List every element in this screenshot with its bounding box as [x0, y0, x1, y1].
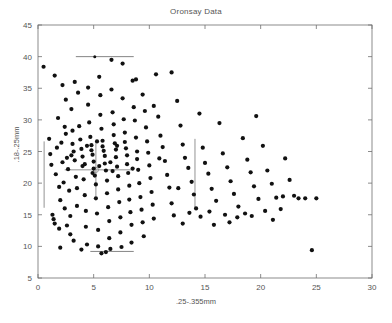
- data-point: [92, 166, 96, 170]
- data-point: [57, 227, 61, 231]
- data-point: [79, 147, 83, 151]
- data-point: [58, 198, 62, 202]
- data-point: [115, 144, 119, 148]
- data-point: [225, 165, 229, 169]
- data-point: [74, 175, 78, 179]
- data-point: [125, 162, 129, 166]
- data-point: [65, 156, 69, 160]
- data-point: [78, 137, 82, 141]
- data-point: [115, 165, 119, 169]
- data-point: [281, 194, 285, 198]
- data-point: [83, 193, 87, 197]
- data-point: [90, 153, 94, 157]
- data-point: [206, 172, 210, 176]
- data-point: [144, 125, 148, 129]
- y-tick-label: 45: [23, 21, 32, 30]
- data-point: [99, 127, 103, 131]
- data-point: [108, 160, 112, 164]
- data-point: [103, 161, 107, 165]
- data-point: [97, 164, 101, 168]
- data-point: [105, 179, 109, 183]
- data-point: [142, 234, 146, 238]
- data-point: [152, 104, 156, 108]
- x-axis-label: .25-.355mm: [0, 297, 392, 306]
- data-point: [86, 103, 90, 107]
- data-point: [53, 74, 57, 78]
- data-point: [103, 154, 107, 158]
- data-point: [152, 216, 156, 220]
- data-point: [279, 207, 283, 211]
- data-point: [214, 199, 218, 203]
- data-point: [126, 171, 130, 175]
- data-point: [252, 184, 256, 188]
- y-axis-label: .18-.25mm: [12, 105, 21, 185]
- data-point: [85, 144, 89, 148]
- data-point: [104, 168, 108, 172]
- data-point: [68, 214, 72, 218]
- data-point: [139, 208, 143, 212]
- data-point: [256, 197, 260, 201]
- data-point: [176, 186, 180, 190]
- data-point: [73, 80, 77, 84]
- data-point: [53, 222, 57, 226]
- data-point: [165, 173, 169, 177]
- data-point: [65, 223, 69, 227]
- data-point: [83, 162, 87, 166]
- data-point: [79, 247, 83, 251]
- data-point: [241, 136, 245, 140]
- data-point: [192, 192, 196, 196]
- data-point: [80, 154, 84, 158]
- data-point: [265, 168, 269, 172]
- data-point: [96, 244, 100, 248]
- data-point: [99, 251, 103, 255]
- data-point: [134, 135, 138, 139]
- data-point: [60, 83, 64, 87]
- data-point: [235, 215, 239, 219]
- data-point: [121, 96, 125, 100]
- data-point: [50, 213, 54, 217]
- data-point: [90, 171, 94, 175]
- data-point: [163, 159, 167, 163]
- data-point: [170, 70, 174, 74]
- data-point: [85, 242, 89, 246]
- data-point: [110, 110, 114, 114]
- data-point: [138, 195, 142, 199]
- data-point: [89, 143, 93, 147]
- data-point: [82, 177, 86, 181]
- data-point: [88, 135, 92, 139]
- data-point: [110, 169, 114, 173]
- data-point: [112, 122, 116, 126]
- scatter-plot-canvas: 05101520253051015202530354045: [0, 0, 392, 323]
- data-point: [227, 220, 231, 224]
- data-point: [194, 206, 198, 210]
- data-point: [263, 209, 267, 213]
- data-point: [106, 205, 110, 209]
- data-point: [207, 209, 211, 213]
- data-point: [143, 109, 147, 113]
- data-point: [116, 187, 120, 191]
- data-point: [119, 245, 123, 249]
- data-point: [123, 130, 127, 134]
- data-point: [154, 72, 158, 76]
- data-point: [41, 65, 45, 69]
- data-point: [117, 200, 121, 204]
- data-point: [98, 113, 102, 117]
- data-point: [217, 121, 221, 125]
- data-point: [109, 87, 113, 91]
- data-point: [84, 225, 88, 229]
- data-point: [47, 137, 51, 141]
- data-point: [236, 204, 240, 208]
- data-point: [121, 61, 125, 65]
- data-point: [105, 191, 109, 195]
- data-point: [102, 149, 106, 153]
- data-point: [108, 247, 112, 251]
- data-point: [310, 248, 314, 252]
- oronsay-scatter-figure: Oronsay Data 051015202530510152025303540…: [0, 0, 392, 323]
- data-point: [292, 194, 296, 198]
- data-point: [89, 148, 93, 152]
- upper-horizontal-bar-center-point: [93, 55, 96, 58]
- y-tick-label: 40: [23, 53, 32, 62]
- data-point: [63, 206, 67, 210]
- data-point: [66, 167, 70, 171]
- data-point: [118, 215, 122, 219]
